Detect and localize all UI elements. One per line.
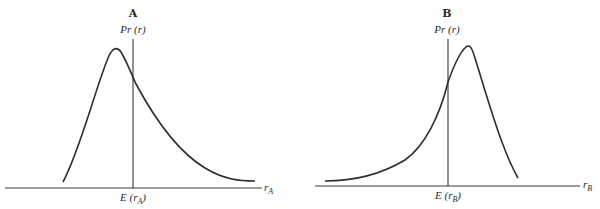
panel-a-x-label: rA — [264, 181, 273, 196]
panel-b-x-label: rB — [583, 178, 592, 193]
panel-b-y-label: Pr (r) — [433, 23, 460, 36]
diagram-canvas: A Pr (r) rA E (rA) B Pr (r) rB E (rB) — [0, 0, 600, 209]
panel-b-mean-label: E (rB) — [434, 189, 461, 204]
panel-a: A Pr (r) rA E (rA) — [5, 7, 273, 206]
panel-b-distribution-curve — [325, 46, 518, 181]
panel-a-y-label: Pr (r) — [119, 23, 146, 36]
panel-b: B Pr (r) rB E (rB) — [315, 7, 592, 204]
panel-a-distribution-curve — [63, 49, 255, 182]
panel-b-title: B — [442, 7, 451, 20]
panel-a-title: A — [128, 7, 138, 20]
panel-a-mean-label: E (rA) — [119, 191, 146, 206]
